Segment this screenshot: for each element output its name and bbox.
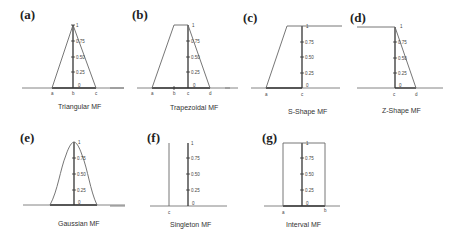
svg-text:0: 0	[193, 83, 196, 88]
caption: Interval MF	[286, 221, 321, 228]
svg-text:a: a	[282, 210, 285, 215]
caption: Trapezoidal MF	[170, 104, 218, 112]
svg-text:0.75: 0.75	[191, 39, 200, 44]
svg-text:b: b	[173, 91, 176, 96]
panel-triangular: (a) 1 0.75 0.50 0.25 0 a b c Triangular …	[20, 7, 124, 111]
caption: Triangular MF	[58, 103, 101, 111]
svg-text:0: 0	[78, 200, 81, 205]
panel-gaussian: (e) 1 0.75 0.50 0.25 0 Gaussian MF	[20, 130, 125, 227]
triangular-curve	[52, 25, 96, 88]
panel-label: (d)	[350, 10, 366, 25]
panel-trapezoidal: (b) 1 0.75 0.50 0.25 0 a b c d Trapezoid…	[110, 7, 230, 112]
svg-text:1: 1	[306, 141, 309, 146]
svg-text:1: 1	[78, 140, 81, 145]
svg-text:0.50: 0.50	[305, 55, 314, 60]
panel-label: (g)	[262, 130, 277, 145]
svg-text:0.50: 0.50	[191, 55, 200, 60]
panel-z-shape: (d) 1 0.75 0.50 0.25 0 c d Z-Shape MF	[350, 10, 443, 115]
svg-text:0.75: 0.75	[76, 39, 85, 44]
panel-s-shape: (c) 1 0.75 0.50 0.25 0 a c S-Shape MF	[225, 10, 342, 116]
svg-text:c: c	[187, 91, 190, 96]
svg-text:1: 1	[76, 23, 79, 28]
panel-label: (c)	[243, 10, 257, 25]
svg-text:0.50: 0.50	[398, 56, 407, 61]
svg-text:0.25: 0.25	[191, 70, 200, 75]
svg-text:b: b	[72, 91, 75, 96]
panel-label: (e)	[20, 130, 34, 145]
svg-text:1: 1	[400, 24, 403, 29]
svg-text:c: c	[95, 91, 98, 96]
svg-text:0.75: 0.75	[305, 156, 314, 161]
panel-singleton: (f) 1 0.75 0.50 0.25 0 c Singleton MF	[110, 130, 225, 229]
svg-text:1: 1	[306, 24, 309, 29]
trapezoidal-curve	[152, 25, 210, 88]
svg-text:a: a	[151, 91, 154, 96]
svg-text:0.25: 0.25	[398, 71, 407, 76]
svg-text:0.25: 0.25	[305, 188, 314, 193]
svg-text:d: d	[415, 92, 418, 97]
svg-text:0.50: 0.50	[191, 172, 200, 177]
svg-text:c: c	[393, 92, 396, 97]
svg-text:c: c	[168, 210, 171, 215]
svg-text:1: 1	[192, 23, 195, 28]
z-shape-curve	[357, 27, 416, 88]
svg-text:0.50: 0.50	[305, 172, 314, 177]
svg-text:0: 0	[399, 83, 402, 88]
caption: Z-Shape MF	[382, 107, 421, 115]
svg-text:a: a	[51, 91, 54, 96]
svg-text:0.75: 0.75	[77, 156, 86, 161]
svg-text:0: 0	[192, 201, 195, 206]
caption: Gaussian MF	[58, 220, 100, 227]
svg-text:0.25: 0.25	[76, 70, 85, 75]
svg-text:0.50: 0.50	[76, 55, 85, 60]
interval-box	[283, 143, 325, 206]
svg-text:0.75: 0.75	[305, 40, 314, 45]
svg-text:1: 1	[191, 141, 194, 146]
caption: S-Shape MF	[288, 108, 327, 116]
caption: Singleton MF	[170, 221, 211, 229]
svg-text:b: b	[324, 208, 327, 213]
svg-text:0: 0	[306, 83, 309, 88]
svg-text:0.25: 0.25	[305, 71, 314, 76]
svg-text:0.25: 0.25	[77, 188, 86, 193]
svg-text:c: c	[301, 92, 304, 97]
svg-text:d: d	[209, 91, 212, 96]
svg-text:0.25: 0.25	[191, 188, 200, 193]
panel-label: (a)	[20, 7, 35, 22]
panel-label: (f)	[147, 130, 160, 145]
svg-text:0.50: 0.50	[77, 172, 86, 177]
panel-interval: (g) 1 0.75 0.50 0.25 0 a b Interval MF	[225, 130, 340, 228]
membership-functions-figure: (a) 1 0.75 0.50 0.25 0 a b c Triangular …	[0, 0, 463, 238]
svg-text:0: 0	[78, 83, 81, 88]
svg-text:0: 0	[306, 201, 309, 206]
svg-text:a: a	[265, 92, 268, 97]
svg-text:0.75: 0.75	[398, 40, 407, 45]
panel-label: (b)	[132, 7, 148, 22]
svg-text:0.75: 0.75	[191, 156, 200, 161]
